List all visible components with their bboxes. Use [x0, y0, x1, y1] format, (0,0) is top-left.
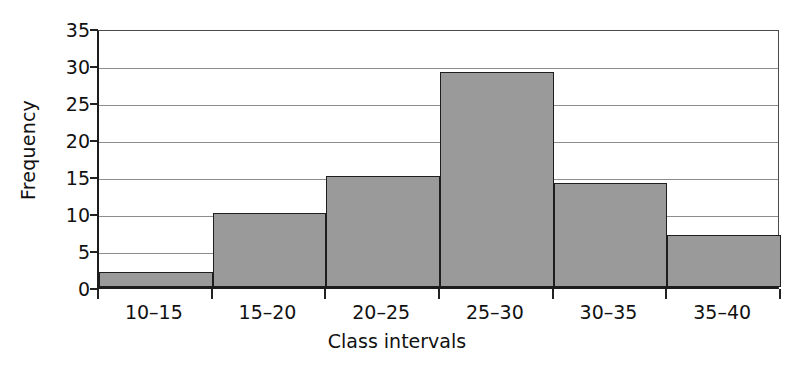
x-tick-label: 20–25 — [352, 301, 410, 323]
x-tick-mark — [438, 289, 440, 299]
histogram-figure: Frequency 05101520253035 10–1515–2020–25… — [0, 0, 794, 366]
y-tick-label: 10 — [66, 204, 90, 226]
x-axis-title: Class intervals — [0, 330, 794, 352]
bar-30-35 — [554, 183, 668, 287]
x-tick-label: 25–30 — [466, 301, 524, 323]
x-tick-mark — [211, 289, 213, 299]
y-tick-label: 30 — [66, 56, 90, 78]
x-tick-label: 30–35 — [580, 301, 638, 323]
y-tick-label: 0 — [78, 278, 90, 300]
bar-25-30 — [440, 72, 554, 287]
y-tick-label: 35 — [66, 19, 90, 41]
x-tick-mark — [665, 289, 667, 299]
plot-area — [97, 30, 779, 289]
y-tick-label: 25 — [66, 93, 90, 115]
x-tick-mark — [97, 289, 99, 299]
bar-35-40 — [667, 235, 781, 287]
y-tick-label: 20 — [66, 130, 90, 152]
bar-20-25 — [326, 176, 440, 287]
bar-series — [99, 31, 778, 287]
x-tick-label: 10–15 — [125, 301, 183, 323]
y-tick-label: 15 — [66, 167, 90, 189]
x-tick-mark — [779, 289, 781, 299]
y-axis-title: Frequency — [8, 0, 48, 300]
bar-10-15 — [99, 272, 213, 287]
x-tick-mark — [552, 289, 554, 299]
bar-15-20 — [213, 213, 327, 287]
x-tick-label: 35–40 — [693, 301, 751, 323]
x-tick-mark — [324, 289, 326, 299]
y-axis-ticks: 05101520253035 — [46, 30, 90, 289]
y-axis-title-text: Frequency — [17, 100, 39, 200]
x-tick-label: 15–20 — [239, 301, 297, 323]
y-tick-label: 5 — [78, 241, 90, 263]
